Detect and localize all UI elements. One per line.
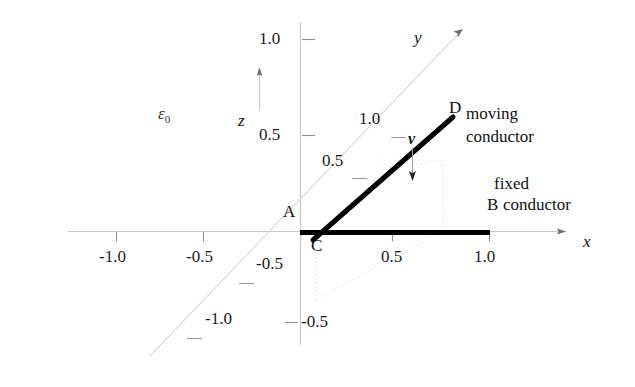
- z-tick-label-1.0: 1.0: [259, 30, 280, 47]
- moving-conductor-segment[interactable]: [313, 117, 453, 240]
- permittivity-symbol: ε0: [158, 105, 170, 125]
- point-label-a: A: [283, 203, 295, 220]
- x-tick-label--0.5: -0.5: [186, 248, 213, 265]
- z-tick-label--0.5: -0.5: [301, 313, 328, 330]
- y-tick-label--0.5: -0.5: [256, 255, 283, 272]
- permittivity-epsilon: ε: [158, 104, 165, 123]
- x-tick-label--1.0: -1.0: [99, 248, 126, 265]
- permittivity-subscript: 0: [165, 113, 171, 125]
- y-tick-label-1.0: 1.0: [359, 110, 380, 127]
- x-tick-label-0.5: 0.5: [381, 248, 402, 265]
- point-label-d: D: [449, 99, 461, 116]
- fixed-conductor-label-line2: conductor: [503, 196, 571, 213]
- y-tick-label--1.0: -1.0: [205, 310, 232, 327]
- y-axis-label: y: [414, 29, 422, 46]
- velocity-label: v: [408, 131, 415, 147]
- x-tick-label-1.0: 1.0: [474, 248, 495, 265]
- z-axis-label: z: [238, 112, 245, 129]
- x-axis-label: x: [583, 233, 591, 250]
- y-tick-label-0.5: 0.5: [322, 152, 343, 169]
- fixed-conductor-label-line1: fixed: [494, 175, 529, 192]
- point-label-c: C: [311, 237, 322, 254]
- figure-canvas: x z y -1.0 -0.5 0.5 1.0 1.0 0.5 -0.5 1.0…: [0, 0, 635, 387]
- z-tick-label-0.5: 0.5: [259, 126, 280, 143]
- point-label-b: B: [487, 196, 498, 213]
- moving-conductor-label-line1: moving: [466, 105, 518, 122]
- moving-conductor-label-line2: conductor: [466, 128, 534, 145]
